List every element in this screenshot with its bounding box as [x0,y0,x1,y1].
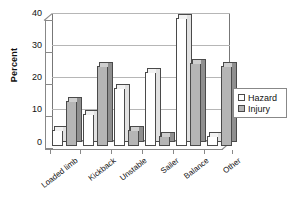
x-axis-tick-0 [50,150,51,154]
chart-legend: Hazard Injury [233,88,287,118]
legend-item-injury[interactable]: Injury [238,103,282,114]
bar-side-injury-unstable [139,126,144,142]
bar-side-injury-kickback [108,62,113,142]
bar-injury-loaded-limb [66,101,77,146]
legend-item-hazard[interactable]: Hazard [238,92,282,103]
bar-hazard-kickback [83,114,94,146]
bar-hazard-other [207,136,218,146]
injury-swatch-icon [238,105,245,112]
hazard-swatch-icon [238,94,245,101]
x-axis-tick-2 [111,150,112,154]
bar-chart: Percent 40 30 20 10 0 [0,0,295,202]
x-axis-tick-1 [80,150,81,154]
x-axis-tick-3 [142,150,143,154]
bar-hazard-balance [176,18,187,146]
bar-side-injury-sailer [170,132,175,142]
legend-label-hazard: Hazard [248,93,277,103]
bar-hazard-unstable [114,88,125,146]
bar-injury-balance [190,63,201,146]
bar-side-injury-loaded-limb [77,97,82,142]
bar-injury-other [221,66,232,146]
bar-injury-unstable [128,130,139,146]
legend-label-injury: Injury [248,104,270,114]
x-axis-tick-6 [232,150,233,154]
bar-hazard-sailer [145,72,156,146]
bar-side-injury-balance [201,59,206,142]
bar-hazard-loaded-limb [52,130,63,146]
bar-side-hazard-sailer [156,68,161,142]
bar-injury-sailer [159,136,170,146]
x-axis-tick-5 [204,150,205,154]
x-axis-tick-4 [173,150,174,154]
bar-injury-kickback [97,66,108,146]
